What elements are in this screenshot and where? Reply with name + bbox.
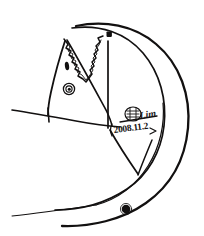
paper-background bbox=[0, 0, 204, 236]
sketch-canvas: Lim 2008.11.2 bbox=[0, 0, 204, 236]
bottom-round-dot bbox=[122, 205, 131, 214]
ink-drawing: Lim 2008.11.2 bbox=[0, 0, 204, 236]
top-square-dot bbox=[107, 32, 112, 37]
horizon-left-tick bbox=[48, 108, 49, 122]
